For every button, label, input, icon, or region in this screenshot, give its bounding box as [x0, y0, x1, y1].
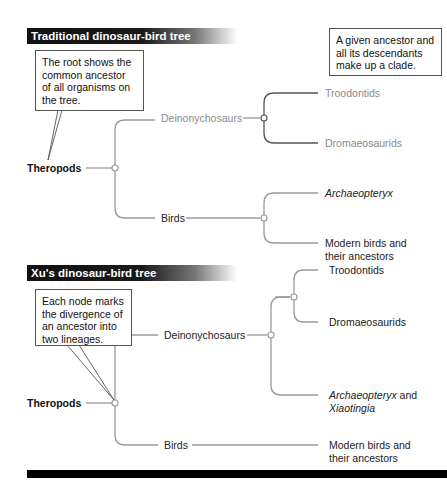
archaeopteryx-italic: Archaeopteryx: [325, 187, 393, 199]
top-deinonychosaurs-label: Deinonychosaurs: [161, 112, 242, 125]
node-callout: Each node marks the divergence of an anc…: [35, 289, 132, 346]
bottom-deinonychosaurs-label: Deinonychosaurs: [164, 329, 245, 342]
and-text: and: [397, 389, 417, 401]
clade-note: A given ancestor and all its descendants…: [329, 28, 442, 76]
modern-birds-line2: their ancestors: [329, 452, 411, 465]
bottom-tree-title: Xu's dinosaur-bird tree: [27, 265, 237, 281]
top-dromaeosaurids-label: Dromaeosaurids: [325, 137, 402, 150]
bottom-archaeopteryx-xiaotingia-label: Archaeopteryx and Xiaotingia: [329, 389, 417, 414]
top-troodontids-label: Troodontids: [325, 87, 380, 100]
footer-rule: [27, 470, 447, 478]
modern-birds-line1: Modern birds and: [325, 237, 407, 250]
xiaotingia-italic: Xiaotingia: [329, 402, 375, 414]
archaeopteryx-italic: Archaeopteryx: [329, 389, 397, 401]
bottom-root-label: Theropods: [27, 397, 81, 410]
bottom-dromaeosaurids-label: Dromaeosaurids: [329, 316, 406, 329]
bottom-modern-birds-label: Modern birds and their ancestors: [329, 439, 411, 464]
top-tree-title: Traditional dinosaur-bird tree: [27, 28, 237, 44]
bottom-birds-label: Birds: [164, 439, 188, 452]
modern-birds-line2: their ancestors: [325, 250, 407, 263]
root-callout: The root shows the common ancestor of al…: [35, 50, 144, 111]
top-archaeopteryx-label: Archaeopteryx: [325, 187, 393, 200]
top-birds-label: Birds: [161, 212, 185, 225]
bottom-troodontids-label: Troodontids: [329, 264, 384, 277]
top-root-label: Theropods: [27, 162, 81, 175]
top-modern-birds-label: Modern birds and their ancestors: [325, 237, 407, 262]
modern-birds-line1: Modern birds and: [329, 439, 411, 452]
